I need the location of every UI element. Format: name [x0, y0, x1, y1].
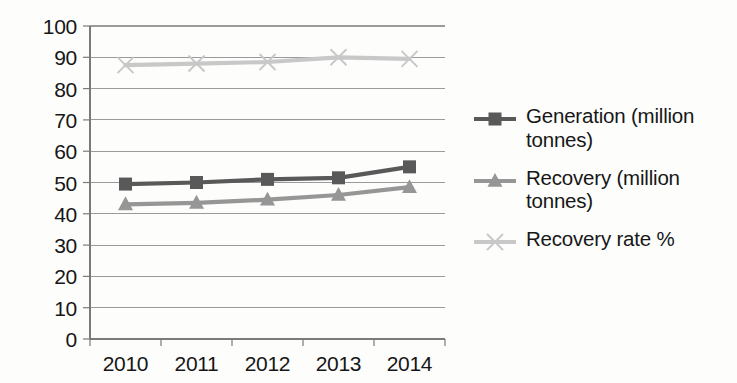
- y-axis-tick-label: 40: [25, 204, 77, 225]
- line-chart: 1009080706050403020100 20102011201220132…: [0, 0, 737, 383]
- legend-marker-triangle-icon: [474, 168, 516, 194]
- y-axis-tick-label: 50: [25, 173, 77, 194]
- x-axis-tick-label: 2012: [228, 353, 308, 374]
- y-axis-tick-label: 70: [25, 110, 77, 131]
- legend-item[interactable]: Generation (million tonnes): [474, 104, 732, 152]
- y-axis-tick-label: 90: [25, 47, 77, 68]
- legend-item[interactable]: Recovery (million tonnes): [474, 166, 732, 214]
- legend-label: Recovery rate %: [526, 227, 675, 251]
- y-axis-tick-label: 10: [25, 298, 77, 319]
- chart-legend: Generation (million tonnes)Recovery (mil…: [474, 104, 732, 269]
- y-axis-tick-label: 60: [25, 141, 77, 162]
- x-axis-tick-label: 2010: [86, 353, 166, 374]
- y-axis-tick-label: 80: [25, 79, 77, 100]
- y-axis-tick-label: 30: [25, 235, 77, 256]
- series-1: [119, 160, 416, 190]
- x-axis-ticks: [90, 339, 445, 346]
- legend-marker-square-icon: [474, 106, 516, 132]
- x-axis-tick-label: 2011: [157, 353, 237, 374]
- legend-label: Recovery (million tonnes): [526, 166, 731, 214]
- series-3: [118, 49, 418, 73]
- gridlines: [90, 26, 445, 308]
- legend-label: Generation (million tonnes): [526, 104, 731, 152]
- y-axis-tick-label: 100: [25, 16, 77, 37]
- legend-marker-cross-icon: [474, 229, 516, 255]
- y-axis-tick-label: 20: [25, 266, 77, 287]
- x-axis-tick-label: 2013: [299, 353, 379, 374]
- x-axis-tick-label: 2014: [370, 353, 450, 374]
- y-axis-tick-label: 0: [25, 329, 77, 350]
- data-series-layer: [118, 49, 418, 210]
- legend-item[interactable]: Recovery rate %: [474, 227, 732, 255]
